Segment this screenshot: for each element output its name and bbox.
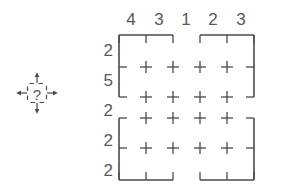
arrow-left-icon	[16, 91, 27, 96]
plus-mark	[221, 91, 233, 103]
column-label: 1	[181, 10, 190, 29]
nonogram-grid: 4 3 1 2 3 2 5 2 2 2	[96, 2, 281, 187]
column-labels: 4 3 1 2 3	[126, 10, 245, 29]
question-mark-glyph: ?	[33, 86, 41, 103]
grid-plus-marks	[140, 61, 233, 154]
plus-mark	[140, 61, 152, 73]
plus-mark	[221, 61, 233, 73]
row-label: 5	[104, 71, 113, 90]
plus-mark	[167, 61, 179, 73]
plus-mark	[167, 91, 179, 103]
plus-mark	[140, 91, 152, 103]
plus-mark	[140, 112, 152, 124]
plus-mark	[194, 61, 206, 73]
column-label: 2	[208, 10, 217, 29]
grid-ticks-bottom	[146, 172, 227, 180]
column-label: 3	[154, 10, 163, 29]
figure-canvas: ? 4 3 1 2 3 2 5 2 2 2	[0, 0, 281, 187]
row-label: 2	[104, 41, 113, 60]
row-label: 2	[104, 161, 113, 180]
column-label: 4	[126, 10, 135, 29]
arrow-up-icon	[35, 72, 40, 83]
plus-mark	[167, 142, 179, 154]
grid-ticks-left	[119, 67, 127, 148]
plus-mark	[221, 112, 233, 124]
plus-mark	[194, 112, 206, 124]
row-labels: 2 5 2 2 2	[104, 41, 113, 180]
plus-mark	[167, 112, 179, 124]
arrow-down-icon	[35, 103, 40, 114]
arrow-right-icon	[47, 91, 58, 96]
plus-mark	[194, 142, 206, 154]
grid-ticks-top	[146, 35, 227, 43]
row-label: 2	[104, 131, 113, 150]
plus-mark	[140, 142, 152, 154]
row-label: 2	[104, 101, 113, 120]
plus-mark	[194, 91, 206, 103]
plus-mark	[221, 142, 233, 154]
move-question-icon[interactable]: ?	[14, 70, 60, 116]
grid-ticks-right	[246, 67, 254, 148]
column-label: 3	[236, 10, 245, 29]
